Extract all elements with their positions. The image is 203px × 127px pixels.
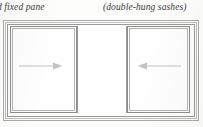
- figure-page: d fixed pane (double-hung sashes): [0, 0, 203, 127]
- caption-double-hung-sashes: (double-hung sashes): [103, 2, 187, 13]
- window-pane-center-fixed: [77, 26, 127, 113]
- sliding-window-diagram: [3, 20, 199, 121]
- caption-fixed-pane: d fixed pane: [0, 2, 45, 13]
- window-pane-right-sash: [127, 26, 190, 113]
- window-pane-left-sash: [10, 26, 77, 113]
